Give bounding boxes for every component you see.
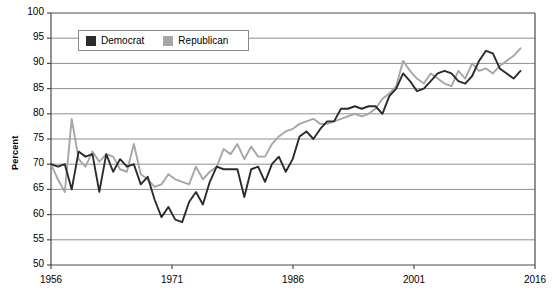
y-tick-label: 80: [14, 107, 44, 118]
x-tick-label: 2016: [512, 274, 557, 285]
legend-swatch-democrat: [86, 36, 96, 46]
x-tick-label: 1956: [28, 274, 74, 285]
line-chart: Percent 10095908580757065605550 19561971…: [0, 0, 557, 306]
y-tick-label: 50: [14, 258, 44, 269]
y-tick-label: 90: [14, 56, 44, 67]
y-tick-label: 65: [14, 182, 44, 193]
legend-item-democrat: Democrat: [86, 35, 144, 46]
y-tick-label: 60: [14, 208, 44, 219]
x-tick-label: 2001: [391, 274, 437, 285]
x-tick-label: 1971: [149, 274, 195, 285]
legend-label-democrat: Democrat: [101, 35, 144, 46]
legend-item-republican: Republican: [163, 35, 228, 46]
y-tick-label: 85: [14, 82, 44, 93]
legend-swatch-republican: [163, 36, 173, 46]
y-tick-label: 100: [14, 6, 44, 17]
y-tick-label: 55: [14, 233, 44, 244]
chart-legend: Democrat Republican: [78, 30, 249, 51]
legend-label-republican: Republican: [178, 35, 228, 46]
y-tick-label: 70: [14, 157, 44, 168]
y-tick-label: 95: [14, 31, 44, 42]
y-tick-label: 75: [14, 132, 44, 143]
x-tick-label: 1986: [270, 274, 316, 285]
